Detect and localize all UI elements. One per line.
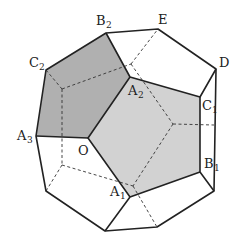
label-B1: B 1 (204, 156, 220, 173)
svg-text:A: A (127, 83, 138, 98)
label-B2: B 2 (96, 13, 112, 30)
svg-text:1: 1 (120, 191, 126, 201)
label-D: D (219, 55, 229, 70)
dodecahedron-diagram: B 2 E D C 2 A 2 C 1 A 3 O B 1 A 1 (0, 0, 240, 251)
label-E: E (158, 12, 168, 27)
label-O: O (78, 143, 89, 158)
svg-text:2: 2 (106, 20, 112, 30)
svg-text:D: D (219, 55, 229, 70)
svg-text:2: 2 (39, 62, 45, 72)
svg-text:B: B (204, 156, 214, 171)
label-C2: C 2 (29, 55, 45, 72)
svg-text:O: O (78, 143, 89, 158)
label-A3: A 3 (16, 128, 33, 145)
svg-text:3: 3 (27, 135, 33, 145)
svg-text:1: 1 (214, 163, 220, 173)
svg-text:C: C (202, 98, 212, 113)
svg-text:B: B (96, 13, 106, 28)
svg-text:2: 2 (138, 90, 144, 100)
svg-text:E: E (158, 12, 168, 27)
svg-text:A: A (16, 128, 27, 143)
svg-text:C: C (29, 55, 39, 70)
svg-text:1: 1 (212, 105, 218, 115)
svg-text:A: A (109, 184, 120, 199)
